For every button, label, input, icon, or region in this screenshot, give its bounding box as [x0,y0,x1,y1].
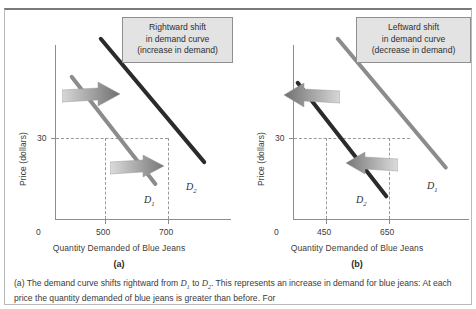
caption-part-2: . This represents an increase in demand [211,278,364,288]
panel-b-quantity-gridline-650 [389,138,390,219]
panel-b-x-tick-650: 650 [380,227,394,237]
panel-b-quantity-gridline-450 [326,138,327,219]
panel-a-quantity-gridline-700 [168,138,169,219]
panel-a-x-tick-700: 700 [159,227,173,237]
panel-b-y-tickmark [289,138,294,139]
panel-a-x-tickmark-700 [168,219,169,224]
panel-b: Price (dollars) 30 0 450 650 Quantity De… [238,0,476,258]
panel-a-y-tickmark [51,138,56,139]
panel-b-y-axis [293,45,294,219]
panel-b-shift-arrow-upper [284,83,340,109]
panel-b-curve-label-d2-sub: 2 [363,200,366,207]
panel-a-callout-line2: in demand curve [128,34,227,46]
panel-a-callout-line3: (increase in demand) [128,45,227,57]
panel-b-callout-line1: Leftward shift [362,22,465,34]
panel-a-callout: Rightward shift in demand curve (increas… [122,17,233,63]
caption-part-1: (a) The demand curve shifts rightward fr… [14,278,181,288]
panel-a-curve-label-d1-sub: 1 [151,200,154,207]
panel-a-shift-arrow-upper [62,82,122,108]
panel-a-curve-label-d1: D1 [144,194,155,207]
panel-b-price-gridline [294,138,410,139]
panel-b-curve-label-d2: D2 [356,194,367,207]
panel-a: Price (dollars) 30 0 500 700 Quantity De… [0,0,238,258]
panel-a-curve-label-d2-sub: 2 [193,187,196,194]
panel-a-callout-line1: Rightward shift [128,22,227,34]
panel-b-y-axis-label: Price (dollars) [256,132,266,186]
panel-a-x-axis-label: Quantity Demanded of Blue Jeans [0,243,238,253]
panel-b-y-tick-30: 30 [275,133,284,143]
figure-root: Price (dollars) 30 0 500 700 Quantity De… [0,0,476,309]
panel-a-x-tickmark-500 [105,219,106,224]
panel-a-quantity-gridline-500 [105,138,106,219]
panel-a-y-tick-30: 30 [37,133,46,143]
panel-a-x-tick-500: 500 [96,227,110,237]
panel-b-callout-line3: (decrease in demand) [362,45,465,57]
panel-b-callout-line2: in demand curve [362,34,465,46]
panel-a-y-axis [55,45,56,219]
panel-a-x-axis [55,219,231,220]
panel-a-origin-label: 0 [36,227,41,237]
panel-b-x-tickmark-450 [326,219,327,224]
panel-b-x-tick-450: 450 [317,227,331,237]
panel-b-x-axis-label: Quantity Demanded of Blue Jeans [238,243,476,253]
panel-a-curve-label-d2: D2 [186,181,197,194]
panel-b-origin-label: 0 [274,227,279,237]
panel-b-curve-label-d1-sub: 1 [434,186,437,193]
panel-b-curve-label-d1: D1 [427,180,438,193]
caption-to: to [190,278,202,288]
panel-b-tag: (b) [238,259,476,269]
figure-caption: (a) The demand curve shifts rightward fr… [14,278,462,305]
panel-a-shift-arrow-lower [110,155,166,179]
panel-a-tag: (a) [0,259,238,269]
panel-b-x-tickmark-650 [389,219,390,224]
panel-a-price-gridline [56,138,168,139]
panel-a-y-axis-label: Price (dollars) [18,132,28,186]
panel-b-x-axis [293,219,469,220]
panel-b-shift-arrow-lower [346,152,398,176]
panel-b-callout: Leftward shift in demand curve (decrease… [356,17,471,63]
